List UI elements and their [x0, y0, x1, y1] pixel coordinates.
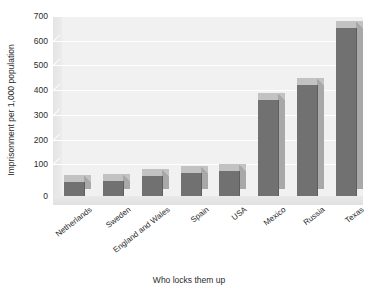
plot-floor [53, 196, 363, 205]
x-tick-label: Texas [343, 205, 365, 225]
bar-front-face [336, 28, 357, 196]
x-tick-label: USA [230, 205, 249, 222]
bar-side-face [317, 78, 324, 189]
y-axis-title: Imprisonment per 1,000 population [4, 22, 18, 197]
bar [103, 174, 123, 196]
x-axis-title: Who locks them up [0, 275, 378, 285]
y-tick-label: 700 [34, 11, 48, 21]
y-tick-label: 200 [34, 135, 48, 145]
bar-corner-bevel [356, 21, 363, 28]
gridline [53, 41, 363, 42]
bar-corner-bevel [123, 174, 130, 181]
gridline [53, 16, 363, 17]
bar [297, 78, 317, 196]
y-axis-ticks: 0100200300400500600700 [20, 0, 48, 295]
x-tick-label: Mexico [262, 205, 288, 228]
bar-corner-bevel [162, 169, 169, 176]
bar-front-face [64, 182, 85, 196]
bar [142, 169, 162, 196]
y-tick-label: 0 [43, 191, 48, 201]
bar-top-face [336, 21, 356, 28]
bar-top-face [103, 174, 123, 181]
y-tick-label: 600 [34, 36, 48, 46]
bar [219, 164, 239, 196]
bar-corner-bevel [278, 93, 285, 100]
bar-chart: Imprisonment per 1,000 population 010020… [0, 0, 378, 295]
y-tick-label: 100 [34, 159, 48, 169]
bar-front-face [258, 100, 279, 196]
bar-top-face [142, 169, 162, 176]
bar [181, 166, 201, 196]
x-tick-label: Spain [188, 205, 210, 225]
bar-front-face [142, 176, 163, 196]
bar-top-face [219, 164, 239, 171]
bar-side-face [356, 21, 363, 189]
bar-front-face [103, 181, 124, 196]
bar-corner-bevel [84, 175, 91, 182]
x-tick-label: Netherlands [54, 205, 94, 239]
gridline [53, 65, 363, 66]
bar-top-face [181, 166, 201, 173]
bar-corner-bevel [239, 164, 246, 171]
y-tick-label: 400 [34, 85, 48, 95]
plot-area [53, 16, 363, 205]
x-axis-labels: NetherlandsSwedenEngland and WalesSpainU… [53, 205, 363, 265]
bar-top-face [258, 93, 278, 100]
bar-corner-bevel [317, 78, 324, 85]
y-tick-label: 300 [34, 110, 48, 120]
bar [258, 93, 278, 196]
bar [64, 175, 84, 196]
x-tick-label: Russia [302, 205, 327, 227]
bar [336, 21, 356, 196]
bar-top-face [297, 78, 317, 85]
bar-front-face [181, 173, 202, 196]
bar-top-face [64, 175, 84, 182]
bar-front-face [297, 85, 318, 196]
y-axis-title-text: Imprisonment per 1,000 population [6, 44, 16, 175]
bar-side-face [278, 93, 285, 189]
x-tick-label: Sweden [104, 205, 132, 230]
y-tick-label: 500 [34, 60, 48, 70]
bar-corner-bevel [201, 166, 208, 173]
bar-front-face [219, 171, 240, 196]
